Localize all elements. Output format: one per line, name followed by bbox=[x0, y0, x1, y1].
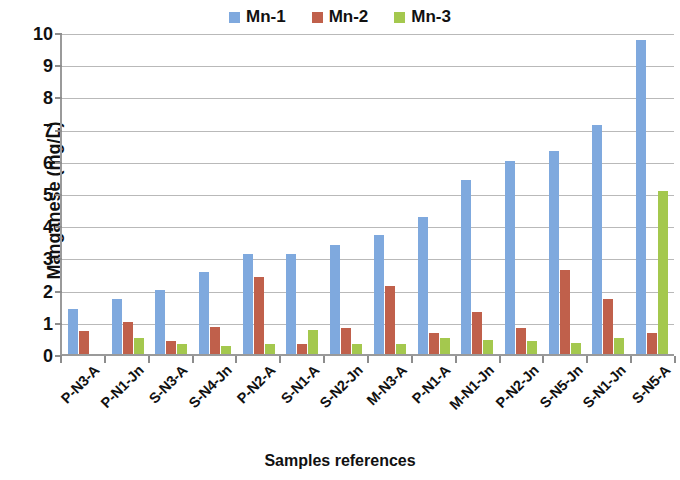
bar-group bbox=[368, 34, 412, 354]
x-axis-tick-label: M-N1-Jn bbox=[447, 362, 498, 413]
bar-mn-3[interactable] bbox=[177, 344, 187, 354]
bar-mn-1[interactable] bbox=[374, 235, 384, 354]
bar-mn-3[interactable] bbox=[527, 341, 537, 354]
legend-swatch-mn-2 bbox=[312, 12, 323, 23]
bar-mn-3[interactable] bbox=[571, 343, 581, 354]
chart-legend: Mn-1Mn-2Mn-3 bbox=[0, 4, 680, 30]
bar-mn-1[interactable] bbox=[330, 245, 340, 354]
x-axis-tick-label: S-N3-A bbox=[146, 362, 191, 407]
bar-mn-1[interactable] bbox=[461, 180, 471, 354]
bar-mn-3[interactable] bbox=[265, 344, 275, 354]
y-axis-tickmark bbox=[55, 33, 62, 35]
bar-mn-3[interactable] bbox=[658, 191, 668, 354]
bar-mn-2[interactable] bbox=[603, 299, 613, 354]
legend-entry-mn-1[interactable]: Mn-1 bbox=[229, 7, 286, 27]
bar-mn-2[interactable] bbox=[297, 344, 307, 354]
bar-mn-2[interactable] bbox=[79, 331, 89, 354]
x-axis-tick-labels: P-N3-AP-N1-JnS-N3-AS-N4-JnP-N2-AS-N1-AS-… bbox=[60, 362, 674, 440]
bar-mn-3[interactable] bbox=[352, 344, 362, 354]
x-axis-tick-label: S-N2-Jn bbox=[317, 362, 366, 411]
legend-swatch-mn-1 bbox=[229, 12, 240, 23]
bar-mn-2[interactable] bbox=[341, 328, 351, 354]
bar-group bbox=[587, 34, 631, 354]
bar-mn-2[interactable] bbox=[429, 333, 439, 354]
bar-mn-2[interactable] bbox=[166, 341, 176, 354]
legend-swatch-mn-3 bbox=[394, 12, 405, 23]
bar-groups bbox=[62, 34, 674, 354]
bar-mn-3[interactable] bbox=[440, 338, 450, 354]
bar-mn-3[interactable] bbox=[134, 338, 144, 354]
bar-group bbox=[455, 34, 499, 354]
bar-mn-2[interactable] bbox=[516, 328, 526, 354]
bar-mn-2[interactable] bbox=[123, 322, 133, 354]
bar-mn-2[interactable] bbox=[560, 270, 570, 354]
bar-mn-1[interactable] bbox=[68, 309, 78, 354]
bar-group bbox=[499, 34, 543, 354]
bar-group bbox=[62, 34, 106, 354]
bar-group bbox=[281, 34, 325, 354]
bar-group bbox=[237, 34, 281, 354]
x-axis-tick-label: S-N1-A bbox=[278, 362, 323, 407]
bar-group bbox=[324, 34, 368, 354]
bar-mn-1[interactable] bbox=[112, 299, 122, 354]
bar-group bbox=[106, 34, 150, 354]
bar-mn-2[interactable] bbox=[647, 333, 657, 354]
bar-group bbox=[543, 34, 587, 354]
bar-mn-2[interactable] bbox=[210, 327, 220, 354]
bar-group bbox=[630, 34, 674, 354]
x-axis-tick-label: P-N3-A bbox=[58, 362, 103, 407]
x-axis-tick-label: M-N3-A bbox=[364, 362, 410, 408]
x-axis-tickmark bbox=[674, 356, 676, 363]
bar-mn-1[interactable] bbox=[418, 217, 428, 354]
plot-area: 012345678910 bbox=[60, 34, 674, 356]
bar-mn-3[interactable] bbox=[308, 330, 318, 354]
bar-mn-1[interactable] bbox=[505, 161, 515, 354]
legend-entry-mn-2[interactable]: Mn-2 bbox=[312, 7, 369, 27]
bar-mn-3[interactable] bbox=[483, 340, 493, 354]
bar-mn-1[interactable] bbox=[243, 254, 253, 354]
bar-group bbox=[149, 34, 193, 354]
x-axis-tick-label: P-N1-Jn bbox=[98, 362, 147, 411]
bar-mn-2[interactable] bbox=[385, 286, 395, 354]
bar-mn-3[interactable] bbox=[396, 344, 406, 354]
bar-mn-1[interactable] bbox=[592, 125, 602, 354]
bar-mn-2[interactable] bbox=[254, 277, 264, 354]
bar-mn-3[interactable] bbox=[614, 338, 624, 354]
x-axis-tick-label: S-N5-Jn bbox=[536, 362, 585, 411]
x-axis-tick-label: S-N4-Jn bbox=[185, 362, 234, 411]
x-axis-title: Samples references bbox=[0, 452, 680, 470]
manganese-bar-chart: Mn-1Mn-2Mn-3 Manganese (mg/L) 0123456789… bbox=[0, 0, 680, 480]
x-axis-tick-label: S-N1-Jn bbox=[580, 362, 629, 411]
bar-mn-2[interactable] bbox=[472, 312, 482, 354]
legend-entry-mn-3[interactable]: Mn-3 bbox=[394, 7, 451, 27]
bar-group bbox=[412, 34, 456, 354]
bar-group bbox=[193, 34, 237, 354]
x-axis-tick-label: P-N2-A bbox=[234, 362, 279, 407]
legend-label-mn-2: Mn-2 bbox=[329, 7, 369, 27]
bar-mn-1[interactable] bbox=[636, 40, 646, 354]
legend-label-mn-1: Mn-1 bbox=[246, 7, 286, 27]
bar-mn-1[interactable] bbox=[199, 272, 209, 354]
bar-mn-1[interactable] bbox=[155, 290, 165, 354]
x-axis-tick-label: S-N5-A bbox=[628, 362, 673, 407]
x-axis-tick-label: P-N2-Jn bbox=[492, 362, 541, 411]
bar-mn-1[interactable] bbox=[286, 254, 296, 354]
bar-mn-1[interactable] bbox=[549, 151, 559, 354]
legend-label-mn-3: Mn-3 bbox=[411, 7, 451, 27]
bar-mn-3[interactable] bbox=[221, 346, 231, 354]
